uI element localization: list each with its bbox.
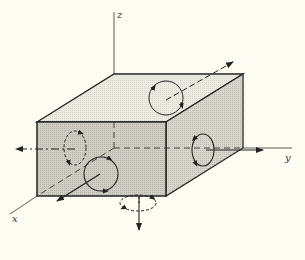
cube-diagram: z y x	[0, 0, 305, 260]
y-axis-label: y	[284, 152, 291, 163]
x-axis	[10, 196, 37, 214]
bottom-face-loop	[120, 195, 156, 211]
z-axis-label: z	[116, 9, 123, 20]
x-axis-label: x	[12, 213, 18, 224]
